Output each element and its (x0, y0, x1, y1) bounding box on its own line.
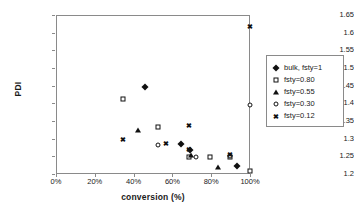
legend-item-label: fsty=0.80 (284, 75, 315, 84)
legend-item: fsty=0.30 (272, 97, 339, 109)
legend-item-label: bulk, fsty=1 (284, 63, 322, 72)
data-point-marker: ✖ (185, 121, 192, 128)
legend-marker-icon: ✖ (272, 111, 281, 120)
data-point-marker (248, 103, 253, 108)
data-point-marker (208, 155, 213, 160)
legend-marker-glyph (274, 101, 279, 106)
legend-item: bulk, fsty=1 (272, 61, 339, 73)
data-point-marker (155, 143, 160, 148)
legend-marker-icon (272, 63, 281, 72)
legend-marker-icon (272, 75, 281, 84)
x-tick-mark (56, 174, 57, 177)
data-point-marker (193, 154, 198, 159)
x-tick-label: 80% (191, 178, 231, 186)
data-point-marker (248, 168, 253, 173)
legend-item-label: fsty=0.30 (284, 99, 315, 108)
legend-item-label: fsty=0.12 (284, 111, 315, 120)
data-point-marker: ✖ (185, 145, 192, 152)
data-point-marker (135, 127, 141, 132)
legend-item-label: fsty=0.55 (284, 87, 315, 96)
x-axis-title: conversion (%) (56, 192, 250, 202)
legend-marker-glyph (273, 89, 279, 94)
x-tick-label: 40% (114, 178, 154, 186)
x-tick-mark (172, 174, 173, 177)
legend-marker-glyph: ✖ (273, 112, 280, 119)
legend-marker-glyph (272, 64, 279, 71)
data-point-marker (215, 164, 221, 169)
scatter-chart-figure: 1.21.251.31.351.41.451.51.551.61.65 0%20… (0, 0, 354, 216)
data-point-marker: ✖ (119, 136, 126, 143)
x-tick-mark (134, 174, 135, 177)
data-point-marker: ✖ (162, 139, 169, 146)
data-point-marker: ✖ (226, 151, 233, 158)
data-point-marker (155, 125, 160, 130)
x-tick-label: 20% (75, 178, 115, 186)
x-tick-label: 60% (152, 178, 192, 186)
data-point-marker: ✖ (247, 22, 254, 29)
x-tick-label: 100% (230, 178, 270, 186)
legend-marker-icon (272, 87, 281, 96)
chart-legend: bulk, fsty=1fsty=0.80fsty=0.55fsty=0.30✖… (266, 55, 344, 127)
y-axis-title: PDI (13, 69, 23, 109)
legend-item: ✖fsty=0.12 (272, 109, 339, 121)
x-tick-mark (211, 174, 212, 177)
legend-marker-glyph (274, 77, 279, 82)
legend-item: fsty=0.55 (272, 85, 339, 97)
legend-marker-icon (272, 99, 281, 108)
x-tick-mark (250, 174, 251, 177)
x-tick-mark (95, 174, 96, 177)
x-tick-label: 0% (36, 178, 76, 186)
data-point-marker (120, 97, 125, 102)
legend-item: fsty=0.80 (272, 73, 339, 85)
